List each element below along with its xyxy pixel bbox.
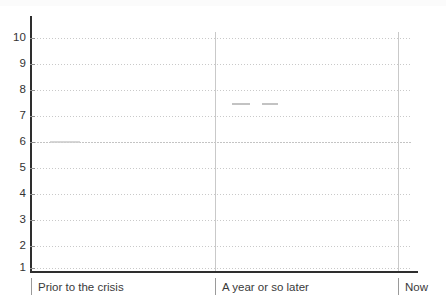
y-tick-mark-9 bbox=[30, 64, 35, 65]
y-axis-label-6: 6 bbox=[4, 135, 26, 147]
y-axis-label-5: 5 bbox=[4, 161, 26, 173]
gridline-3 bbox=[31, 220, 412, 221]
y-tick-mark-6 bbox=[30, 142, 35, 143]
x-tick-a-year-or-so-later bbox=[215, 278, 216, 295]
y-tick-mark-2 bbox=[30, 246, 35, 247]
x-tick-now bbox=[398, 278, 399, 295]
gridline-1 bbox=[31, 268, 412, 269]
gridline-2 bbox=[31, 246, 412, 247]
gridline-8 bbox=[31, 90, 412, 91]
y-axis-label-9: 9 bbox=[4, 57, 26, 69]
vertical-gridline-now bbox=[398, 32, 399, 272]
gridline-5 bbox=[31, 168, 412, 169]
y-tick-mark-1 bbox=[30, 268, 35, 269]
vertical-gridline-year-later bbox=[215, 32, 216, 272]
gridline-9 bbox=[31, 64, 412, 65]
y-axis-label-7: 7 bbox=[4, 109, 26, 121]
x-axis-label-prior-to-the-crisis: Prior to the crisis bbox=[38, 280, 124, 294]
x-axis-label-a-year-or-so-later: A year or so later bbox=[222, 280, 309, 294]
chart-container: 10 9 8 7 6 5 4 3 2 1 Prior to the crisis… bbox=[0, 0, 446, 308]
scan-top-band bbox=[0, 0, 446, 6]
y-axis-label-10: 10 bbox=[4, 31, 26, 43]
gridline-4 bbox=[31, 194, 412, 195]
y-axis-label-8: 8 bbox=[4, 83, 26, 95]
y-axis-label-1: 1 bbox=[4, 261, 26, 273]
gridline-10b bbox=[31, 38, 412, 39]
y-tick-mark-7 bbox=[30, 116, 35, 117]
x-tick-prior-to-the-crisis bbox=[31, 278, 32, 295]
data-mark-prior-to-the-crisis bbox=[50, 141, 80, 143]
gridline-6 bbox=[31, 142, 412, 143]
x-axis-line bbox=[30, 271, 418, 273]
y-tick-mark-10 bbox=[30, 38, 35, 39]
y-tick-mark-4 bbox=[30, 194, 35, 195]
x-axis-label-now: Now bbox=[405, 280, 428, 294]
y-tick-mark-3 bbox=[30, 220, 35, 221]
data-mark-a-year-or-so-later-b bbox=[262, 103, 278, 105]
data-mark-a-year-or-so-later-a bbox=[232, 103, 250, 105]
y-axis-label-4: 4 bbox=[4, 187, 26, 199]
y-tick-mark-5 bbox=[30, 168, 35, 169]
y-axis-line bbox=[30, 16, 32, 273]
gridline-7 bbox=[31, 116, 412, 117]
y-axis-label-3: 3 bbox=[4, 213, 26, 225]
y-axis-label-2: 2 bbox=[4, 239, 26, 251]
y-tick-mark-8 bbox=[30, 90, 35, 91]
